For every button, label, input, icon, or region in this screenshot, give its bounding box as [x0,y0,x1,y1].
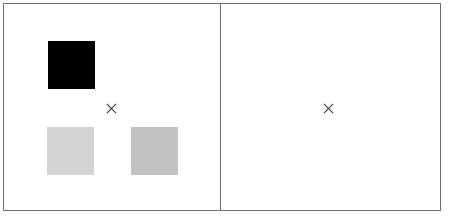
fixation-cross-icon [106,103,117,114]
gray-square [131,127,178,175]
light-gray-square [47,127,94,175]
right-display-panel [220,3,441,211]
left-display-panel [3,3,221,211]
black-square [48,41,95,89]
fixation-cross-icon [323,103,334,114]
